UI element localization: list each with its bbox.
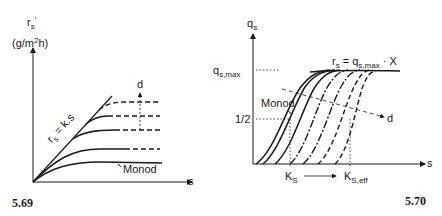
monod-label-569: Monod — [123, 164, 157, 175]
qsmax-label: qs,max — [213, 65, 240, 79]
figures-canvas — [0, 0, 442, 216]
d-label-569: d — [137, 79, 143, 90]
curve-2 — [263, 70, 335, 164]
y-axis-label-570: qs — [247, 18, 257, 32]
curve-2 — [33, 149, 125, 182]
figure-number-570: 5.70 — [405, 194, 426, 209]
curve-monod — [256, 70, 330, 164]
monod-label-570: Monod — [261, 98, 295, 109]
curve-5 — [303, 70, 360, 164]
curve-5-dashed — [99, 102, 160, 110]
figure-569 — [33, 48, 192, 182]
x-axis-label-570: s — [427, 158, 433, 169]
figure-number-569: 5.69 — [12, 196, 33, 211]
y-axis-unit-569: (g/m2h) — [12, 37, 48, 49]
x-axis-label-569: s — [188, 176, 194, 187]
monod-pointer — [118, 164, 121, 167]
y-axis-label-569: rs′ — [27, 16, 36, 31]
monod-pointer — [288, 110, 291, 114]
plateau-label: rs = qs,max · X — [332, 56, 397, 70]
kseff-label: KS,eff — [344, 171, 368, 185]
curve-4 — [290, 70, 348, 164]
ks-label: KS — [285, 171, 298, 185]
half-label: 1/2 — [235, 114, 250, 125]
d-label-570: d — [387, 113, 393, 124]
